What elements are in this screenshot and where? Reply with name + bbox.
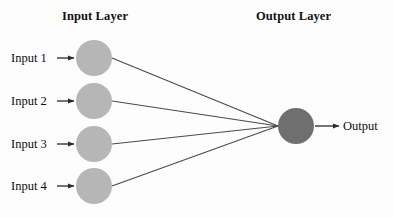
edge-input-1-to-output	[112, 58, 278, 126]
output-label: Output	[343, 119, 378, 134]
connection-edges-group	[112, 58, 278, 186]
input-neuron-2[interactable]	[76, 83, 112, 119]
input-neuron-1[interactable]	[76, 40, 112, 76]
neural-network-diagram: Input Layer Output Layer Input 1 Input 2…	[0, 0, 393, 218]
edge-input-2-to-output	[112, 101, 278, 126]
output-layer-title: Output Layer	[256, 9, 331, 24]
input-neuron-4[interactable]	[76, 168, 112, 204]
input-neuron-3[interactable]	[76, 126, 112, 162]
input-label-4: Input 4	[11, 179, 47, 194]
input-label-3: Input 3	[11, 137, 47, 152]
input-label-1: Input 1	[11, 51, 47, 66]
input-layer-title: Input Layer	[62, 9, 128, 24]
input-arrows-group	[57, 58, 74, 186]
input-neurons-group	[76, 40, 112, 204]
input-label-2: Input 2	[11, 94, 47, 109]
network-canvas	[0, 0, 393, 218]
output-neuron[interactable]	[278, 108, 314, 144]
